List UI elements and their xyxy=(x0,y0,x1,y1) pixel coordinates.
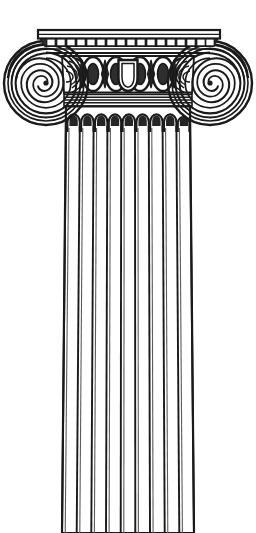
ionic-column-illustration: Ionic Column Capital and Fluted Shaft xyxy=(0,0,256,533)
shaft-flute-shadow xyxy=(69,115,188,126)
column-vector-art xyxy=(0,0,256,533)
abacus xyxy=(38,30,220,47)
central-shield-motif xyxy=(119,60,138,91)
shaft xyxy=(62,104,194,533)
